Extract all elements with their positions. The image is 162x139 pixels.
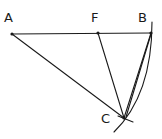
point-f (96, 31, 99, 34)
point-c (122, 116, 125, 119)
diagram-svg: A F B C (0, 0, 162, 139)
geometry-diagram: A F B C (0, 0, 162, 139)
label-f: F (91, 10, 98, 25)
label-c: C (101, 111, 110, 126)
label-a: A (4, 10, 13, 25)
segment-ac (12, 34, 124, 118)
point-a (10, 32, 13, 35)
construction-arc (114, 22, 152, 132)
segment-bc-2 (126, 34, 151, 117)
point-b (149, 31, 152, 34)
segment-ab (12, 33, 151, 34)
label-b: B (138, 10, 147, 25)
segment-fc (98, 33, 124, 118)
